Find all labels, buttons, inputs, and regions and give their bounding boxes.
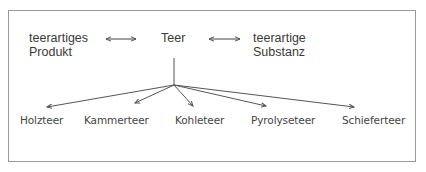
term-teer: Teer [161, 31, 185, 45]
term-teerartiges-produkt: teerartiges Produkt [29, 31, 88, 59]
term-line-1: teerartiges [29, 31, 88, 45]
branch-label-schieferteer: Schieferteer [342, 114, 405, 126]
term-teerartige-substanz: teerartige Substanz [253, 31, 306, 59]
branch-arrow-kohleteer-icon [174, 85, 193, 106]
term-line-2: Produkt [29, 45, 88, 59]
branch-label-pyrolyseteer: Pyrolyseteer [251, 114, 315, 126]
connector-lines [0, 0, 426, 172]
branch-arrow-kammerteer-icon [135, 85, 174, 103]
branch-label-kohleteer: Kohleteer [175, 114, 224, 126]
branch-arrow-pyrolyseteer-icon [174, 85, 266, 106]
branch-arrow-holzteer-icon [47, 85, 174, 107]
branch-arrow-schieferteer-icon [174, 85, 354, 107]
branch-label-holzteer: Holzteer [20, 114, 63, 126]
term-line-2: Substanz [253, 45, 306, 59]
branch-label-kammerteer: Kammerteer [84, 114, 149, 126]
term-line-1: teerartige [253, 31, 306, 45]
